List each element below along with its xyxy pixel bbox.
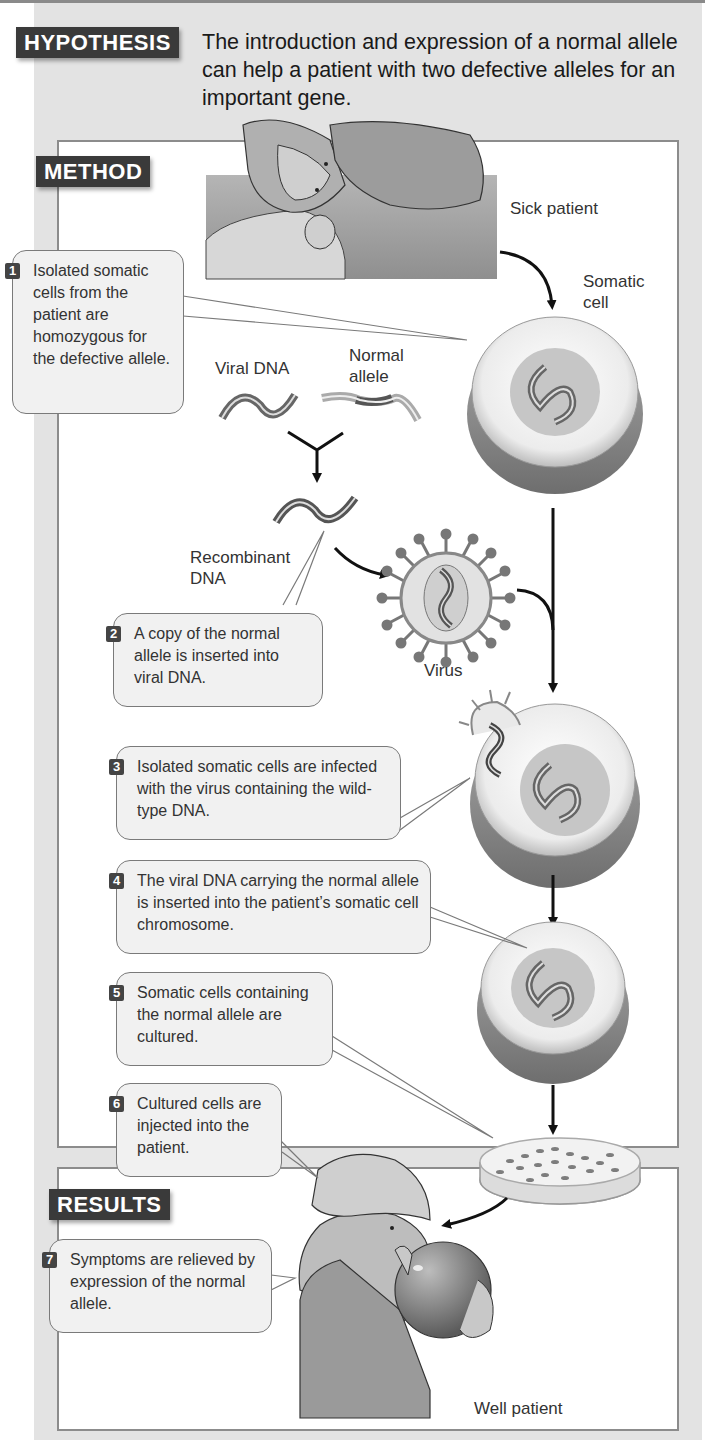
diagram-illustrations — [0, 0, 705, 1440]
step-text: Somatic cells containing the normal alle… — [137, 984, 309, 1045]
label-virus: Virus — [424, 660, 462, 681]
step-number-badge: 3 — [109, 759, 124, 775]
step-text: The viral DNA carrying the normal allele… — [137, 872, 419, 933]
label-sick-patient: Sick patient — [510, 198, 598, 219]
somatic-cell-1 — [467, 317, 643, 494]
somatic-cell-3 — [477, 922, 629, 1084]
step-4-callout: 4 The viral DNA carrying the normal alle… — [116, 860, 431, 954]
step-6-callout: 6 Cultured cells are injected into the p… — [116, 1083, 282, 1177]
viral-dna-strand — [222, 395, 295, 418]
step-text: Isolated somatic cells from the patient … — [33, 262, 170, 367]
well-patient-illustration — [299, 1154, 493, 1418]
label-recombinant-dna: Recombinant DNA — [190, 547, 290, 589]
method-tag: METHOD — [36, 156, 150, 187]
label-well-patient: Well patient — [474, 1398, 563, 1419]
step-text: Isolated somatic cells are infected with… — [137, 758, 377, 819]
step-number-badge: 2 — [106, 626, 121, 642]
sick-patient-illustration — [206, 120, 497, 279]
step-text: Cultured cells are injected into the pat… — [137, 1095, 262, 1156]
virus-illustration — [378, 530, 514, 666]
petri-dish-illustration — [480, 1138, 640, 1204]
step-number-badge: 4 — [109, 873, 124, 889]
step-number-badge: 1 — [5, 263, 20, 279]
step-number-badge: 5 — [109, 985, 124, 1001]
recombinant-dna-strand — [276, 498, 355, 522]
step-text: Symptoms are relieved by expression of t… — [70, 1251, 255, 1312]
results-tag: RESULTS — [49, 1189, 170, 1220]
step-7-callout: 7 Symptoms are relieved by expression of… — [49, 1239, 272, 1333]
step-2-callout: 2 A copy of the normal allele is inserte… — [113, 613, 323, 707]
step-5-callout: 5 Somatic cells containing the normal al… — [116, 972, 333, 1066]
step-number-badge: 6 — [109, 1096, 124, 1112]
label-normal-allele: Normal allele — [349, 345, 419, 387]
step-number-badge: 7 — [42, 1252, 57, 1268]
step-3-callout: 3 Isolated somatic cells are infected wi… — [116, 746, 401, 840]
normal-allele-strand — [322, 396, 418, 420]
label-viral-dna: Viral DNA — [215, 358, 289, 379]
label-somatic-cell: Somatic cell — [583, 271, 663, 313]
somatic-cell-2-infected — [459, 690, 640, 888]
step-1-callout: 1 Isolated somatic cells from the patien… — [12, 250, 184, 414]
step-text: A copy of the normal allele is inserted … — [134, 625, 280, 686]
